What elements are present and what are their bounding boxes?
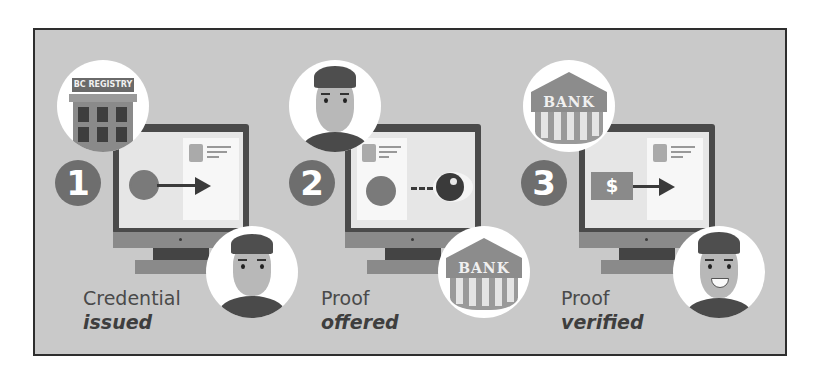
arrow-head-icon	[195, 177, 211, 195]
eye-icon	[343, 98, 347, 103]
step-caption: Credential issued	[83, 286, 181, 334]
verifier-bank-circle: BANK	[438, 226, 530, 318]
monitor-stand	[385, 248, 441, 260]
credential-line	[207, 156, 219, 158]
monitor-power-dot	[179, 238, 182, 241]
monitor-stand	[619, 248, 675, 260]
holder-avatar	[289, 60, 381, 152]
credential-line	[379, 156, 389, 158]
credential-avatar-icon	[653, 144, 667, 162]
credential-flow-diagram: BC REGISTRY 1 Credential	[33, 28, 787, 356]
bank-sign: BANK	[531, 92, 607, 112]
monitor-power-dot	[645, 238, 648, 241]
bank-building-icon	[535, 112, 603, 144]
monitor-stand	[153, 248, 209, 260]
caption-line-2: offered	[321, 310, 399, 334]
registry-cornice	[69, 94, 137, 102]
monitor-screen	[119, 132, 243, 228]
person-shirt	[220, 296, 284, 318]
credential-line	[671, 156, 683, 158]
step-number-badge: 2	[289, 160, 335, 206]
credential-line	[207, 151, 227, 153]
caption-line-2: verified	[561, 310, 644, 334]
eye-icon	[727, 264, 731, 269]
credential-line	[379, 151, 397, 153]
caption-line-2: issued	[83, 310, 181, 334]
arrow-icon	[157, 184, 197, 187]
seal-icon	[368, 178, 394, 204]
person-hair	[698, 232, 740, 254]
arrow-icon	[633, 185, 661, 188]
step-caption: Proof offered	[321, 286, 399, 334]
monitor-screen	[351, 132, 475, 228]
bank-sign: BANK	[446, 258, 522, 278]
bank-roof	[446, 238, 522, 258]
holder-avatar	[206, 226, 298, 318]
eye-icon	[436, 173, 464, 201]
arrow-head-icon	[659, 178, 675, 196]
caption-line-1: Proof	[561, 286, 644, 310]
holder-avatar	[673, 226, 765, 318]
seal-icon	[131, 172, 157, 198]
monitor-power-dot	[411, 238, 414, 241]
registry-circle: BC REGISTRY	[57, 60, 149, 152]
eye-icon	[260, 264, 264, 269]
registry-sign: BC REGISTRY	[72, 78, 134, 92]
dotted-connector	[411, 187, 433, 190]
person-hair	[231, 234, 273, 254]
bank-building-icon	[450, 278, 518, 310]
person-shirt	[687, 298, 751, 318]
eye-icon	[241, 264, 245, 269]
step-caption: Proof verified	[561, 286, 644, 334]
step-number-badge: 3	[521, 160, 567, 206]
eye-icon	[324, 98, 328, 103]
credential-line	[671, 146, 695, 148]
credential-card	[647, 138, 703, 220]
credential-card	[183, 138, 239, 220]
bank-roof	[531, 72, 607, 92]
person-shirt	[303, 132, 367, 152]
eye-icon	[708, 264, 712, 269]
credential-line	[207, 146, 231, 148]
credential-line	[671, 151, 691, 153]
verifier-bank-circle: BANK	[523, 60, 615, 152]
monitor-screen: $	[585, 132, 709, 228]
step-number-badge: 1	[55, 160, 101, 206]
registry-building-icon	[73, 102, 133, 152]
credential-line	[379, 146, 401, 148]
credential-avatar-icon	[189, 144, 203, 162]
caption-line-1: Credential	[83, 286, 181, 310]
caption-line-1: Proof	[321, 286, 399, 310]
person-hair	[314, 66, 356, 88]
money-icon: $	[591, 172, 633, 200]
